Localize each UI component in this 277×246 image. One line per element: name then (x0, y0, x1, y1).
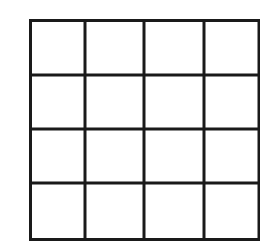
grid-cell-r4-c2 (85, 183, 144, 240)
grid-cell-r4-c4 (204, 183, 259, 240)
grid-cell-r3-c3 (144, 129, 204, 183)
grid-cell-r3-c2 (85, 129, 144, 183)
grid-cell-r3-c1 (31, 129, 86, 183)
grid-cell-r1-c3 (144, 21, 204, 76)
grid-cell-r1-c1 (31, 21, 86, 76)
grid-cell-r2-c1 (31, 75, 86, 129)
grid-cell-r4-c3 (144, 183, 204, 240)
grid-cell-r2-c3 (144, 75, 204, 129)
diagram-canvas (0, 0, 277, 246)
grid-cell-r2-c2 (85, 75, 144, 129)
grid-4x4 (29, 19, 260, 241)
grid-cell-r3-c4 (204, 129, 259, 183)
grid-cell-r1-c4 (204, 21, 259, 76)
grid-lines (29, 19, 260, 241)
grid-cell-r4-c1 (31, 183, 86, 240)
grid-cell-r1-c2 (85, 21, 144, 76)
grid-cell-r2-c4 (204, 75, 259, 129)
